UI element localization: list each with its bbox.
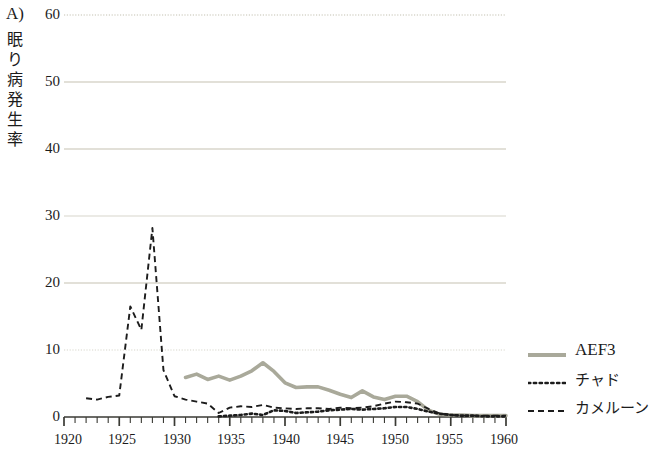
data-series-group	[86, 228, 506, 416]
legend-label-cameroon: カメルーン	[575, 396, 649, 417]
legend: AEF3 チャド カメルーン	[528, 336, 668, 420]
legend-item-cameroon[interactable]: カメルーン	[528, 392, 668, 420]
x-axis-ticks	[64, 417, 506, 426]
legend-label-chad: チャド	[575, 368, 620, 389]
chart-figure: A) 眠 り 病 発 生 率 60 50 40 30 20 10 0 1920 …	[0, 0, 668, 463]
legend-item-aef3[interactable]: AEF3	[528, 336, 668, 364]
legend-item-chad[interactable]: チャド	[528, 364, 668, 392]
gridlines	[64, 15, 506, 350]
legend-label-aef3: AEF3	[575, 340, 616, 360]
